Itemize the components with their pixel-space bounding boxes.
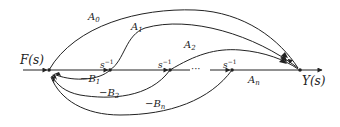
branch-Bn-label: −Bn: [145, 99, 165, 111]
ellipsis: ···: [191, 64, 201, 74]
branch-B2-label: −B2: [99, 88, 119, 100]
branch-B1-label: −B1: [80, 74, 100, 86]
output-node: [298, 68, 302, 72]
input-node: [47, 68, 51, 72]
branch-A1-label: A1: [131, 22, 143, 34]
integrator-2-label: s−1: [158, 59, 171, 70]
branch-A0-edge: [49, 10, 298, 70]
integrator-n-label: s−1: [223, 59, 236, 70]
branch-A0-label: A0: [88, 12, 100, 24]
branch-A2-label: A2: [184, 40, 196, 52]
output-label: Y(s): [302, 75, 325, 87]
integrator-1-label: s−1: [100, 59, 113, 70]
branch-An-label: An: [248, 75, 260, 87]
signal-flow-graph: F(s) Y(s) A0 A1 A2 An s−1 s−1 s−1 ··· −B…: [0, 0, 340, 127]
input-label: F(s): [20, 54, 44, 66]
branch-Bn-edge: [51, 70, 232, 115]
